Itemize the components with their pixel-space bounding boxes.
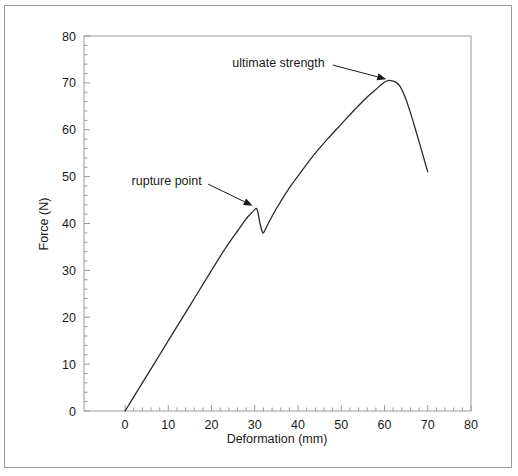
plot-frame	[84, 36, 471, 411]
series-line	[125, 80, 428, 411]
x-tick-label: 80	[464, 418, 478, 432]
y-tick-label: 10	[62, 358, 76, 372]
x-tick-label: 30	[248, 418, 262, 432]
y-tick-label: 20	[62, 311, 76, 325]
annotation-label-rupture-point: rupture point	[132, 174, 203, 188]
chart-figure: 0102030405060708001020304050607080 ruptu…	[0, 0, 518, 476]
y-tick-label: 70	[62, 76, 76, 90]
annotation-arrow-head-rupture-point	[243, 199, 253, 206]
x-tick-label: 0	[122, 418, 129, 432]
x-tick-label: 50	[334, 418, 348, 432]
x-axis-title: Deformation (mm)	[227, 432, 328, 446]
annotation-label-ultimate-strength: ultimate strength	[232, 56, 324, 70]
annotation-arrow-line-rupture-point	[208, 184, 244, 202]
y-tick-label: 40	[62, 217, 76, 231]
y-tick-label: 0	[69, 405, 76, 419]
y-tick-label: 60	[62, 123, 76, 137]
y-tick-label: 50	[62, 170, 76, 184]
chart-canvas: 0102030405060708001020304050607080 ruptu…	[0, 0, 518, 476]
annotation-arrow-line-ultimate-strength	[333, 65, 378, 77]
x-tick-label: 70	[421, 418, 435, 432]
x-tick-label: 60	[378, 418, 392, 432]
x-tick-label: 20	[205, 418, 219, 432]
annotation-arrow-head-ultimate-strength	[377, 73, 387, 80]
axis-tick-labels: 0102030405060708001020304050607080	[62, 30, 478, 433]
x-tick-label: 40	[291, 418, 305, 432]
chart-annotations: rupture pointultimate strength	[132, 56, 387, 206]
data-series-curve	[125, 80, 428, 411]
y-tick-label: 30	[62, 264, 76, 278]
y-axis-title: Force (N)	[37, 198, 51, 251]
axis-ticks	[84, 36, 471, 411]
y-tick-label: 80	[62, 30, 76, 44]
x-tick-label: 10	[161, 418, 175, 432]
